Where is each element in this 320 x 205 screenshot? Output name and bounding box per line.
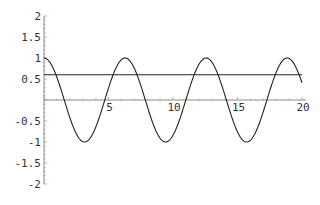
x-tick-label: 10	[167, 101, 180, 114]
y-tick-label: -0.5	[15, 115, 42, 128]
y-tick-label: 2	[34, 10, 41, 23]
y-tick-label: 0.5	[21, 73, 41, 86]
y-tick-label: -2	[28, 178, 41, 191]
y-tick-label: 1	[34, 52, 41, 65]
x-tick-label: 20	[296, 101, 309, 114]
y-tick-label: -1	[28, 136, 41, 149]
x-tick-label: 5	[106, 101, 113, 114]
x-tick-label: 15	[232, 101, 245, 114]
axes: 21.510.5-0.5-1-1.5-25101520	[15, 10, 310, 191]
y-tick-label: 1.5	[21, 31, 41, 44]
plot-area: 21.510.5-0.5-1-1.5-25101520	[0, 0, 320, 205]
y-tick-label: -1.5	[15, 157, 42, 170]
